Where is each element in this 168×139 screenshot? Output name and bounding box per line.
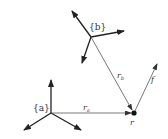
frame-b: {b}	[72, 11, 124, 63]
vector-r-a-label: ra	[83, 103, 90, 113]
point-r-label: r	[130, 118, 135, 127]
vector-f	[134, 64, 157, 113]
frame-a-axis-right	[51, 113, 81, 130]
frame-a-label: {a}	[33, 103, 50, 113]
frame-b-label: {b}	[89, 22, 106, 32]
frame-a: {a}	[24, 80, 81, 130]
vector-f-label: f	[150, 75, 156, 84]
frame-a-axis-left	[24, 113, 51, 130]
vector-r-b-label: rb	[117, 71, 124, 81]
point-r	[131, 110, 136, 115]
frame-b-axis-down	[82, 37, 91, 63]
frames-diagram: {a} {b} ra rb f r	[0, 0, 168, 139]
vector-r-b	[91, 37, 132, 110]
